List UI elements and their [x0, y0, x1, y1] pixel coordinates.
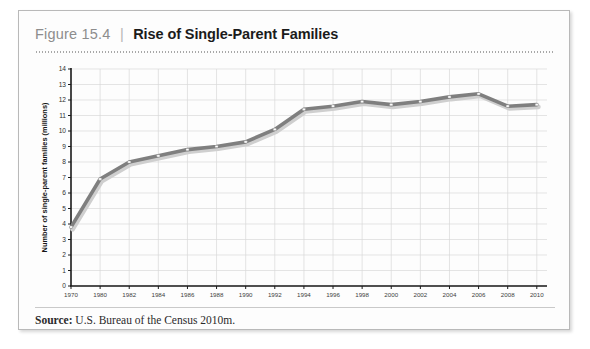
chart-plot-area: 01234567891011121314 1970198019821984198… — [35, 63, 555, 311]
data-point-marker — [99, 178, 102, 180]
x-tick-label: 2004 — [443, 291, 457, 298]
data-point-marker — [70, 226, 73, 228]
x-tick-label: 1970 — [64, 291, 78, 298]
y-tick-label: 12 — [59, 96, 67, 103]
x-tick-label: 1990 — [239, 291, 253, 298]
data-point-marker — [477, 93, 480, 95]
source-note: Source: U.S. Bureau of the Census 2010m. — [35, 314, 235, 326]
axis-layer — [68, 68, 547, 289]
data-point-marker — [506, 105, 509, 107]
x-tick-label: 1984 — [151, 291, 165, 298]
figure-title-divider: | — [115, 26, 129, 42]
x-tick-label: 1986 — [181, 291, 195, 298]
x-tick-label: 1988 — [210, 291, 224, 298]
x-tick-label: 2006 — [472, 291, 486, 298]
x-tick-label: 1996 — [326, 291, 340, 298]
x-tick-label: 1982 — [122, 291, 136, 298]
figure-title: Rise of Single-Parent Families — [133, 26, 338, 42]
series-line-shadow — [73, 96, 539, 229]
x-tick-labels: 1970198019821984198619881990199219941996… — [64, 291, 544, 298]
figure-number: Figure 15.4 — [35, 26, 111, 42]
data-point-marker — [128, 161, 131, 163]
data-point-marker — [273, 128, 276, 130]
title-dotted-rule — [35, 51, 555, 53]
data-point-marker — [186, 149, 189, 151]
x-tick-label: 2008 — [501, 291, 515, 298]
x-tick-label: 1994 — [297, 291, 311, 298]
y-tick-label: 8 — [62, 158, 66, 165]
y-tick-label: 1 — [62, 267, 66, 274]
y-axis-title: Number of single-parent families (millio… — [40, 102, 49, 252]
y-tick-label: 10 — [59, 127, 67, 134]
data-point-marker — [390, 104, 393, 106]
figure-card: Figure 15.4 | Rise of Single-Parent Fami… — [18, 10, 570, 330]
y-tick-label: 2 — [62, 251, 66, 258]
x-tick-label: 1980 — [93, 291, 107, 298]
source-text: U.S. Bureau of the Census 2010m. — [75, 314, 235, 326]
source-label: Source: — [35, 314, 72, 326]
x-tick-label: 1992 — [268, 291, 282, 298]
y-tick-label: 3 — [62, 236, 66, 243]
line-chart: 01234567891011121314 1970198019821984198… — [35, 63, 555, 311]
y-tick-label: 6 — [62, 189, 66, 196]
grid-layer — [71, 69, 547, 286]
data-point-marker — [332, 105, 335, 107]
x-tick-label: 2010 — [530, 291, 544, 298]
source-divider — [35, 307, 555, 308]
y-tick-labels: 01234567891011121314 — [59, 65, 67, 289]
y-tick-label: 11 — [59, 112, 66, 119]
y-tick-label: 7 — [62, 174, 66, 181]
x-tick-label: 2002 — [413, 291, 427, 298]
data-point-marker — [215, 145, 218, 147]
data-point-marker — [419, 100, 422, 102]
data-point-marker — [244, 141, 247, 143]
data-point-marker — [448, 96, 451, 98]
y-axis-title-layer: Number of single-parent families (millio… — [40, 102, 49, 252]
y-tick-label: 9 — [62, 143, 66, 150]
figure-header: Figure 15.4 | Rise of Single-Parent Fami… — [35, 25, 555, 43]
y-tick-label: 13 — [59, 81, 67, 88]
y-tick-label: 0 — [62, 282, 66, 289]
x-tick-label: 2000 — [384, 291, 398, 298]
y-tick-label: 14 — [59, 65, 67, 72]
x-tick-label: 1998 — [355, 291, 369, 298]
y-tick-label: 4 — [62, 220, 66, 227]
data-point-marker — [302, 108, 305, 110]
data-point-marker — [361, 100, 364, 102]
data-point-marker — [157, 155, 160, 157]
y-tick-label: 5 — [62, 205, 66, 212]
data-point-marker — [535, 104, 538, 106]
